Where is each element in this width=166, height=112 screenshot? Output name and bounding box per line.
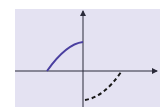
plot-area	[15, 9, 160, 107]
function-graph	[0, 0, 166, 112]
